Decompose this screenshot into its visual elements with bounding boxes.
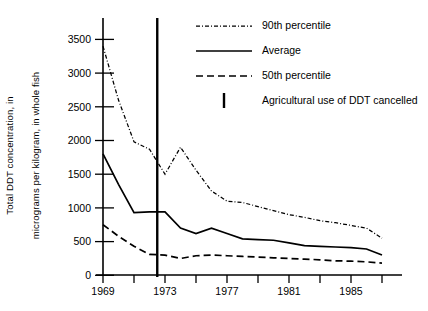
legend-label-ddt-cancelled: Agricultural use of DDT cancelled xyxy=(262,94,418,106)
chart-legend: 90th percentile Average 50th percentile … xyxy=(196,19,418,108)
legend-label-average: Average xyxy=(262,44,301,56)
x-tick-label-1981: 1981 xyxy=(277,285,301,297)
y-tick-label-3000: 3000 xyxy=(68,67,92,79)
x-tick-label-1985: 1985 xyxy=(339,285,363,297)
x-tick-label-1977: 1977 xyxy=(215,285,239,297)
x-tick-label-1973: 1973 xyxy=(153,285,177,297)
y-tick-label-2000: 2000 xyxy=(68,134,92,146)
chart-plot-area: 3500 3000 2500 2000 1500 1000 500 0 xyxy=(0,0,428,311)
chart-figure: Total DDT concentration, in micrograms p… xyxy=(0,0,428,311)
y-tick-label-1000: 1000 xyxy=(68,202,92,214)
y-tick-label-500: 500 xyxy=(73,235,91,247)
series-line-average xyxy=(103,154,382,255)
y-tick-label-3500: 3500 xyxy=(68,33,92,45)
y-tick-label-1500: 1500 xyxy=(68,168,92,180)
legend-label-90th-percentile: 90th percentile xyxy=(262,19,331,31)
series-line-90th-percentile xyxy=(103,46,382,238)
y-tick-label-2500: 2500 xyxy=(68,101,92,113)
y-tick-label-0: 0 xyxy=(85,269,91,281)
legend-label-50th-percentile: 50th percentile xyxy=(262,69,331,81)
y-axis-ticks: 3500 3000 2500 2000 1500 1000 500 0 xyxy=(68,33,114,281)
x-axis-ticks: 1969 1973 1977 1981 1985 xyxy=(91,275,382,297)
x-tick-label-1969: 1969 xyxy=(91,285,115,297)
series-line-50th-percentile xyxy=(103,225,382,263)
